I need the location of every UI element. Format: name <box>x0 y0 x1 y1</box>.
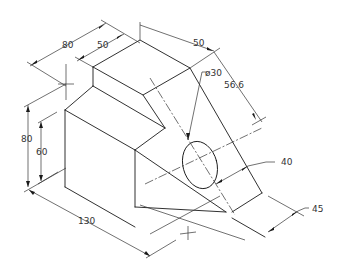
dim-50-left-label: 50 <box>97 40 109 50</box>
object-outline <box>65 40 265 237</box>
dim-50-right: 50 <box>140 22 220 68</box>
dim-80-top-label: 80 <box>62 40 74 50</box>
center-lines <box>145 78 262 215</box>
dim-130: 130 <box>24 168 176 258</box>
dim-40-label: 40 <box>281 157 293 167</box>
isometric-drawing: 80 50 50 56.6 ø30 40 <box>0 0 342 280</box>
dim-45: 45 <box>268 196 323 232</box>
dim-80-height-label: 80 <box>21 134 33 144</box>
dim-56-6: 56.6 <box>214 52 266 125</box>
leader-hole-diameter: ø30 <box>186 68 222 140</box>
hole-diameter-label: ø30 <box>205 68 222 78</box>
dim-56-6-label: 56.6 <box>224 80 244 90</box>
dim-50-left: 50 <box>75 34 124 67</box>
dim-50-right-label: 50 <box>193 38 205 48</box>
dim-45-label: 45 <box>312 204 323 214</box>
dim-60-height: 60 <box>36 112 58 184</box>
dim-130-label: 130 <box>78 216 95 226</box>
dim-80-top: 80 <box>27 20 140 86</box>
dim-60-height-label: 60 <box>36 147 48 157</box>
